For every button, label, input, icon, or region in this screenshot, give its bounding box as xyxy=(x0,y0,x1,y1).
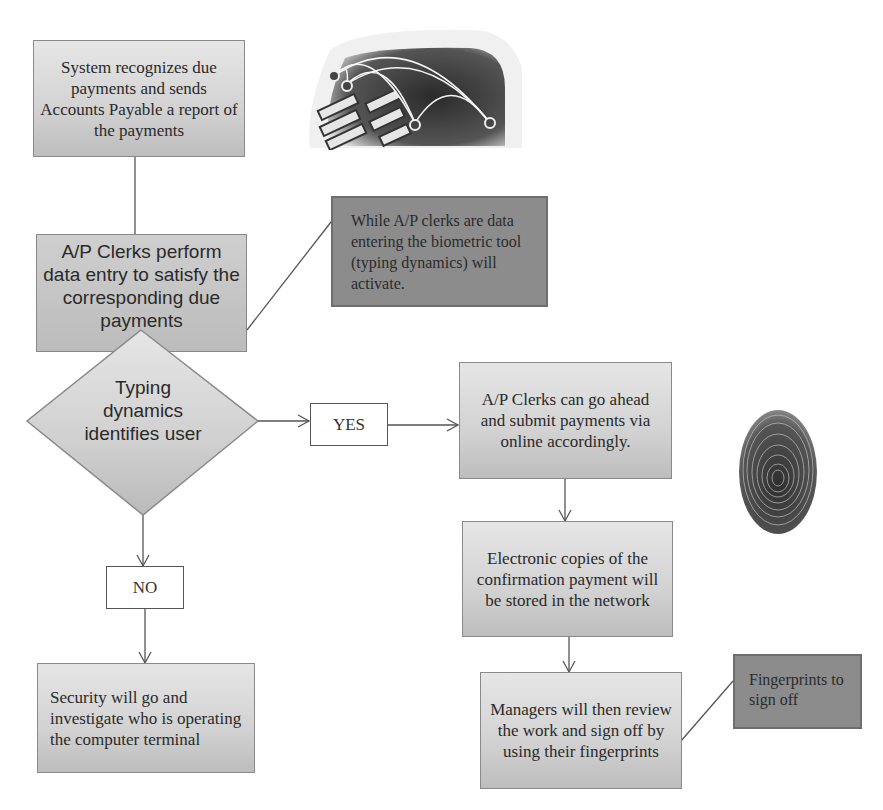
node-data-entry-label: A/P Clerks perform data entry to satisfy… xyxy=(41,240,242,332)
node-submit-payments: A/P Clerks can go ahead and submit payme… xyxy=(459,362,672,479)
node-fingerprint-note: Fingerprints to sign off xyxy=(733,654,862,729)
node-fingerprint-note-label: Fingerprints to sign off xyxy=(749,670,854,710)
node-security-label: Security will go and investigate who is … xyxy=(50,687,244,750)
branch-yes-label: YES xyxy=(333,414,365,435)
branch-no-label: NO xyxy=(133,577,158,598)
decision-label: Typing dynamics identifies user xyxy=(83,376,203,445)
fingerprint-icon xyxy=(735,400,825,540)
node-store-copies: Electronic copies of the confirmation pa… xyxy=(462,521,673,637)
node-security: Security will go and investigate who is … xyxy=(37,663,255,773)
branch-no: NO xyxy=(106,566,184,609)
node-biometric-note-label: While A/P clerks are data entering the b… xyxy=(351,210,536,294)
branch-yes: YES xyxy=(310,403,388,446)
node-manager-signoff: Managers will then review the work and s… xyxy=(480,672,682,789)
node-store-copies-label: Electronic copies of the confirmation pa… xyxy=(471,548,664,611)
node-system-report-label: System recognizes due payments and sends… xyxy=(40,57,238,141)
flowchart-canvas: System recognizes due payments and sends… xyxy=(0,0,883,810)
node-system-report: System recognizes due payments and sends… xyxy=(33,40,245,157)
node-biometric-note: While A/P clerks are data entering the b… xyxy=(331,196,548,307)
node-submit-payments-label: A/P Clerks can go ahead and submit payme… xyxy=(468,389,663,452)
keyboard-network-icon xyxy=(300,28,530,150)
node-manager-signoff-label: Managers will then review the work and s… xyxy=(487,699,675,762)
connector-manager-to-note xyxy=(681,681,733,741)
connector-entry-to-note xyxy=(247,222,331,330)
